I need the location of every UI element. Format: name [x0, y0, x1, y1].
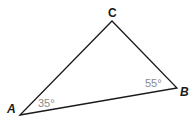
triangle-svg: A B C 35° 55° — [0, 0, 190, 122]
vertex-label-c: C — [108, 6, 117, 20]
triangle-diagram: A B C 35° 55° — [0, 0, 190, 122]
angle-label-a: 35° — [38, 97, 55, 109]
angle-label-b: 55° — [145, 77, 162, 89]
vertex-label-b: B — [180, 85, 189, 99]
vertex-label-a: A — [6, 102, 16, 116]
